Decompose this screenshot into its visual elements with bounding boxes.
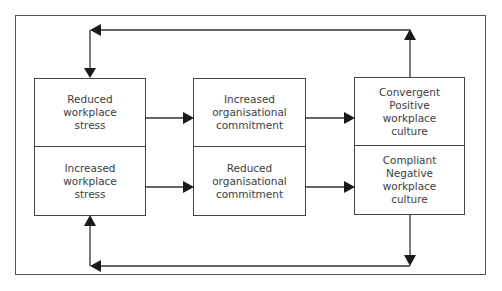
connector-arrows [0,0,502,291]
